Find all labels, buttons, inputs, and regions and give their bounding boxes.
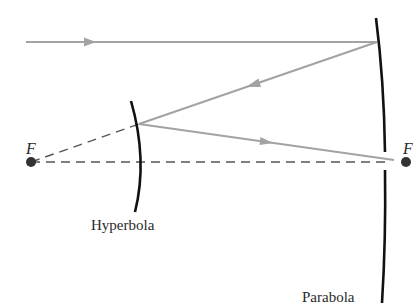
focus-point-right	[401, 157, 411, 167]
parabola-mirror-lower	[382, 170, 385, 303]
parabola-label: Parabola	[302, 290, 354, 305]
focus-label-left: F	[26, 141, 36, 157]
arrow-right-icon	[84, 38, 96, 47]
focus-label-right: F	[403, 141, 413, 157]
hyperbola-mirror	[131, 101, 141, 212]
dashed-extension-line	[31, 124, 139, 162]
parabola-mirror	[376, 18, 385, 152]
hyperbola-label: Hyperbola	[91, 218, 154, 233]
arrow-right-icon	[260, 137, 274, 145]
focus-point-left	[26, 157, 36, 167]
arrow-left-icon	[246, 79, 261, 88]
